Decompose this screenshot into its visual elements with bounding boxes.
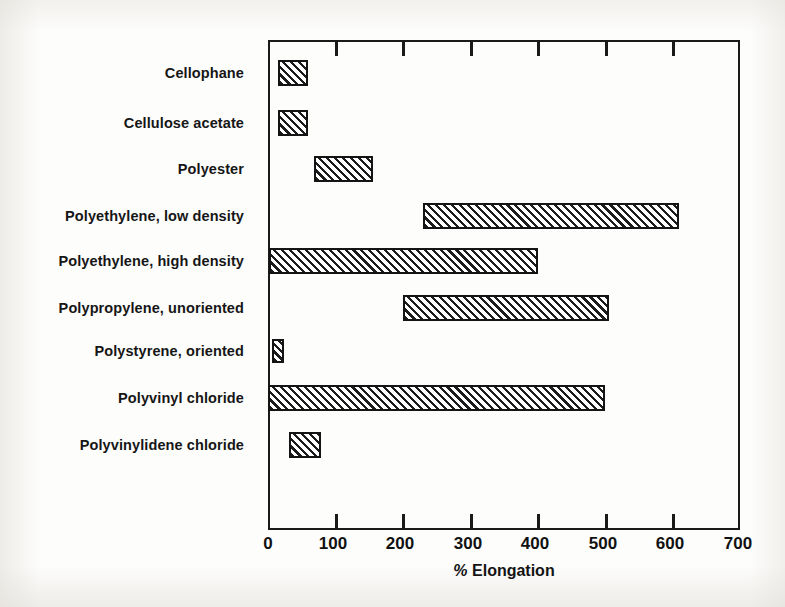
bar-polyethylene-low-density [423, 203, 679, 229]
x-tick-label: 400 [521, 534, 549, 554]
x-tick-label: 100 [319, 534, 347, 554]
category-label: Polyvinyl chloride [118, 390, 244, 406]
x-tick-label: 700 [724, 534, 752, 554]
x-axis-title: % Elongation [268, 562, 740, 580]
x-tick-label: 200 [386, 534, 414, 554]
bar-polyvinylidene-chloride [289, 432, 321, 458]
category-label: Polyester [178, 161, 244, 177]
bar-cellophane [278, 60, 308, 86]
category-label: Cellulose acetate [124, 115, 244, 131]
category-label: Cellophane [165, 65, 244, 81]
x-tick-label: 500 [589, 534, 617, 554]
category-label: Polyvinylidene chloride [80, 437, 244, 453]
category-label: Polystyrene, oriented [94, 343, 244, 359]
x-tick-label: 300 [454, 534, 482, 554]
x-tick-label: 600 [656, 534, 684, 554]
bar-polyester [314, 156, 373, 182]
category-axis-labels: Cellophane Cellulose acetate Polyester P… [0, 0, 262, 607]
category-label: Polypropylene, unoriented [59, 300, 244, 316]
bar-polyvinyl-chloride [268, 385, 605, 411]
bar-polypropylene-unoriented [403, 295, 609, 321]
bar-polyethylene-high-density [269, 248, 537, 274]
bar-cellulose-acetate [278, 110, 308, 136]
x-tick-label: 0 [263, 534, 272, 554]
category-label: Polyethylene, low density [65, 208, 244, 224]
bar-polystyrene-oriented [272, 339, 284, 363]
x-axis-tick-labels: 0 100 200 300 400 500 600 700 [268, 534, 740, 562]
bars-layer [268, 40, 740, 530]
category-label: Polyethylene, high density [59, 253, 245, 269]
chart-figure: Cellophane Cellulose acetate Polyester P… [0, 0, 785, 607]
